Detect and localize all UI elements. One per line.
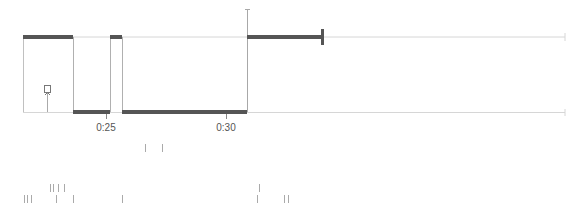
event-tick-rows [25, 144, 289, 203]
segment-end-cap[interactable] [321, 29, 324, 45]
state-segment-high[interactable] [247, 35, 323, 39]
event-row [25, 195, 289, 203]
state-segment-high[interactable] [110, 35, 122, 39]
axis-label: 0:30 [216, 122, 236, 133]
state-segment-low[interactable] [73, 110, 110, 114]
axis-tick-0-30: 0:30 [216, 114, 236, 133]
event-row [51, 184, 260, 192]
state-segment-high[interactable] [23, 35, 73, 39]
timeline-diagram: 0:25 0:30 [0, 0, 583, 222]
event-row [146, 144, 163, 152]
axis-tick-0-25: 0:25 [96, 114, 116, 133]
axis-label: 0:25 [96, 122, 116, 133]
state-segment-low[interactable] [122, 110, 247, 114]
marker-flag-icon[interactable] [45, 86, 51, 113]
